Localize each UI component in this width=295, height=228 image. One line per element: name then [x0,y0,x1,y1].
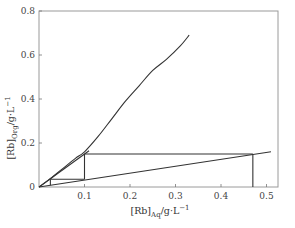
x-tick-label: 0.2 [123,191,137,201]
lower-operating-line [39,152,271,187]
x-tick-label: 0.4 [214,191,229,201]
chart: 0.10.20.30.40.500.20.40.60.8 [Rb]Org/g·L… [0,0,295,228]
x-axis-label: [Rb]Aq/g·L−1 [130,204,189,219]
y-tick-label: 0.8 [21,6,36,16]
y-tick-label: 0.4 [21,94,36,104]
y-tick-label: 0.6 [21,50,36,60]
y-axis-label: [Rb]Org/g·L−1 [4,96,19,159]
x-tick-label: 0.3 [168,191,183,201]
y-tick-label: 0.2 [21,138,35,148]
plot-series [39,35,271,187]
y-tick-label: 0 [29,182,35,192]
isotherm-curve [39,35,189,187]
upper-operating-line [39,151,89,187]
x-tick-label: 0.1 [77,191,91,201]
x-tick-label: 0.5 [259,191,274,201]
